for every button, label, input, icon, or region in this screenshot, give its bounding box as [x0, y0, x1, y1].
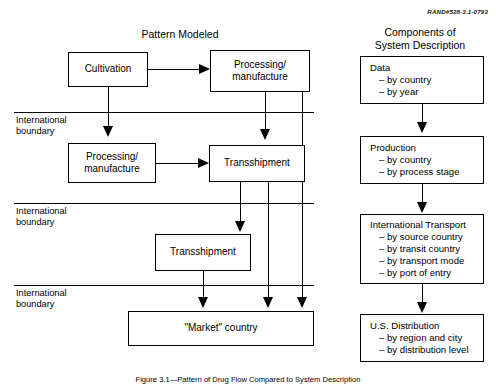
node-cultivation[interactable]: Cultivation: [68, 52, 148, 87]
arrowhead-cultivation-down: [103, 126, 113, 137]
component-international-transport-title: International Transport: [370, 219, 483, 231]
figure-canvas: RAND#528-3.1-0793 Pattern Modeled Compon…: [0, 0, 496, 384]
connector-transshipment2-down: [240, 182, 241, 224]
component-box-us-distribution[interactable]: U.S. Distribution – by region and city –…: [360, 314, 484, 362]
component-production-item-0: – by country: [370, 154, 483, 166]
left-panel-title: Pattern Modeled: [60, 28, 300, 41]
arrowhead-processing-direct-to-market: [297, 297, 307, 308]
arrowhead-data-to-production: [417, 122, 427, 133]
connector-processing2-to-transshipment2: [156, 163, 198, 164]
arrowhead-processing-down-to-transshipment: [260, 129, 270, 140]
connector-processing-direct-to-market: [302, 92, 303, 300]
component-data-item-1: – by year: [370, 86, 483, 98]
arrowhead-international-transport-to-us-distribution: [417, 302, 427, 313]
component-data-title: Data: [370, 62, 483, 74]
component-box-international-transport[interactable]: International Transport – by source coun…: [360, 214, 484, 284]
component-us-distribution-item-0: – by region and city: [370, 332, 483, 344]
component-box-production[interactable]: Production – by country – by process sta…: [360, 136, 484, 184]
international-boundary-line-2: [14, 203, 314, 204]
arrowhead-transshipment2-down: [235, 221, 245, 232]
figure-caption: Figure 3.1—Pattern of Drug Flow Compared…: [0, 375, 496, 384]
arrowhead-transshipment3-to-market: [198, 297, 208, 308]
component-box-data[interactable]: Data – by country – by year: [360, 56, 484, 104]
component-production-title: Production: [370, 142, 483, 154]
rand-publication-id: RAND#528-3.1-0793: [427, 8, 488, 15]
connector-cultivation-to-processing: [148, 69, 199, 70]
international-boundary-label-3: International boundary: [16, 288, 67, 310]
node-processing-manufacture-second[interactable]: Processing/ manufacture: [68, 143, 156, 183]
international-boundary-line-3: [14, 285, 314, 286]
component-us-distribution-item-1: – by distribution level: [370, 344, 483, 356]
connector-cultivation-down: [108, 87, 109, 129]
component-data-item-0: – by country: [370, 74, 483, 86]
right-panel-title: Components of System Description: [350, 26, 490, 52]
component-international-transport-item-0: – by source country: [370, 231, 483, 243]
component-production-item-1: – by process stage: [370, 166, 483, 178]
node-transshipment-second[interactable]: Transshipment: [209, 145, 305, 182]
component-international-transport-item-2: – by transport mode: [370, 255, 483, 267]
connector-transshipment2-direct-to-market: [268, 182, 269, 300]
component-international-transport-item-1: – by transit country: [370, 243, 483, 255]
arrowhead-processing2-to-transshipment2: [198, 158, 209, 168]
connector-processing-down-to-transshipment: [265, 92, 266, 132]
arrowhead-transshipment2-direct-to-market: [263, 297, 273, 308]
arrowhead-production-to-international-transport: [417, 202, 427, 213]
international-boundary-label-2: International boundary: [16, 206, 67, 228]
arrowhead-cultivation-to-processing: [199, 64, 210, 74]
node-processing-manufacture-top[interactable]: Processing/ manufacture: [210, 50, 310, 92]
international-boundary-label-1: International boundary: [16, 115, 67, 137]
node-market-country[interactable]: "Market" country: [128, 311, 314, 346]
connector-transshipment3-to-market: [203, 271, 204, 300]
node-transshipment-third[interactable]: Transshipment: [155, 234, 251, 271]
international-boundary-line-1: [14, 112, 314, 113]
component-us-distribution-title: U.S. Distribution: [370, 320, 483, 332]
component-international-transport-item-3: – by port of entry: [370, 267, 483, 279]
